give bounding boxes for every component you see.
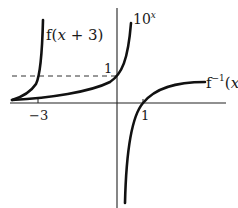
- label-10-x: 10x: [133, 10, 156, 27]
- x-tick-label-1: 1: [141, 108, 149, 123]
- function-graph: f(x + 3) 10x f−1(x) 1 −3 1: [0, 0, 238, 208]
- label-f-x-plus-3: f(x + 3): [46, 26, 103, 44]
- x-tick-label-neg3: −3: [29, 108, 48, 123]
- label-f-inverse: f−1(x): [206, 73, 238, 92]
- y-tick-label-1: 1: [104, 61, 112, 76]
- curve-f-x-plus-3: [12, 20, 43, 100]
- curve-f-inverse: [125, 82, 205, 203]
